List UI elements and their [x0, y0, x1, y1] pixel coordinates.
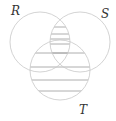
label-s: S [101, 7, 109, 21]
circle-r [10, 12, 70, 72]
label-r: R [10, 4, 20, 18]
hatch-t [0, 53, 116, 91]
circle-s [50, 12, 110, 72]
label-t: T [79, 103, 88, 117]
venn-diagram: R S T [0, 0, 116, 121]
